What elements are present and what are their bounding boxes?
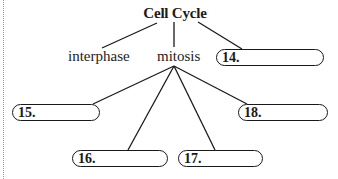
answer-number-15: 15. — [18, 104, 36, 121]
link-cell-cycle-14 — [198, 22, 242, 49]
answer-box-15[interactable]: 15. — [12, 104, 100, 121]
link-mitosis-18 — [174, 66, 247, 104]
cell-cycle-title: Cell Cycle — [140, 5, 210, 22]
answer-number-16: 16. — [78, 150, 96, 167]
connector-lines — [0, 0, 338, 179]
answer-number-14: 14. — [222, 49, 240, 66]
interphase-label: interphase — [68, 48, 130, 65]
answer-box-16[interactable]: 16. — [72, 150, 168, 167]
link-mitosis-17 — [174, 66, 215, 150]
answer-box-14[interactable]: 14. — [216, 49, 324, 66]
mitosis-label: mitosis — [157, 48, 200, 65]
answer-number-18: 18. — [244, 104, 262, 121]
link-cell-cycle-interphase — [102, 23, 157, 48]
answer-box-17[interactable]: 17. — [178, 150, 263, 167]
answer-box-18[interactable]: 18. — [238, 104, 328, 121]
answer-number-17: 17. — [184, 150, 202, 167]
link-mitosis-15 — [93, 66, 174, 104]
link-mitosis-16 — [128, 66, 174, 150]
